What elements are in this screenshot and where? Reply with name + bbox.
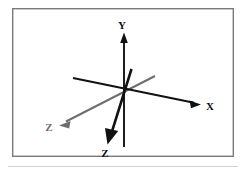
coordinate-axes-figure: Y X Z Z <box>0 0 245 171</box>
z-axis-gray-label: Z <box>45 121 52 133</box>
y-axis-label: Y <box>118 19 126 31</box>
z-axis-black-label: Z <box>101 147 108 159</box>
figure-container: Y X Z Z <box>0 0 245 171</box>
x-axis-label: X <box>206 100 214 112</box>
